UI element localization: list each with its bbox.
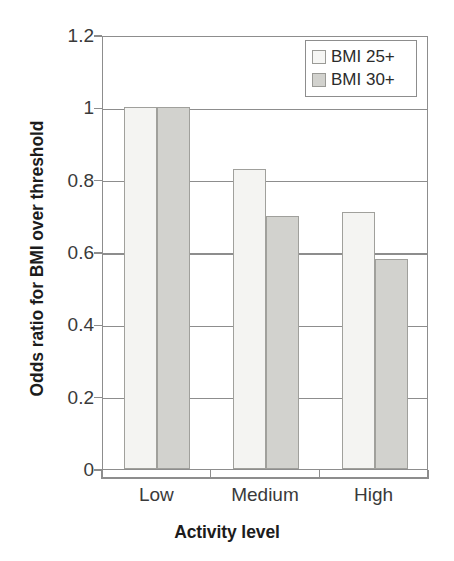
x-axis-title: Activity level xyxy=(0,522,454,543)
bar-high-series-2 xyxy=(375,259,408,469)
y-axis-tick-label: 1 xyxy=(83,98,94,117)
y-axis-tick-label: 0.4 xyxy=(68,315,94,334)
y-axis-tick-mark xyxy=(94,397,102,399)
y-axis-tick-mark xyxy=(94,108,102,110)
x-axis-label-low: Low xyxy=(102,484,211,506)
plot-area xyxy=(102,36,428,470)
bar-chart-figure: Odds ratio for BMI over threshold 1.210.… xyxy=(0,0,454,561)
legend-label: BMI 30+ xyxy=(331,71,395,88)
x-axis-separator-tick xyxy=(210,470,212,479)
y-axis-tick-label: 0.6 xyxy=(68,243,94,262)
y-axis-tick-label: 0 xyxy=(83,460,94,479)
bar-high-series-1 xyxy=(342,212,375,469)
chart-legend: BMI 25+BMI 30+ xyxy=(305,40,417,97)
y-axis-tick-mark xyxy=(94,180,102,182)
bar-low-series-2 xyxy=(157,107,190,469)
legend-swatch-bmi-25 xyxy=(312,50,326,64)
x-axis-separator-tick xyxy=(101,470,103,479)
y-axis-tick-mark xyxy=(94,35,102,37)
bars-group xyxy=(103,37,427,469)
y-axis-tick-label: 0.2 xyxy=(68,388,94,407)
legend-item-2: BMI 30+ xyxy=(312,68,411,91)
y-axis-tick-label: 1.2 xyxy=(68,26,94,45)
bar-low-series-1 xyxy=(124,107,157,469)
legend-swatch-bmi-30 xyxy=(312,73,326,87)
x-axis-line xyxy=(102,477,428,479)
legend-label: BMI 25+ xyxy=(331,48,395,65)
x-axis-label-high: High xyxy=(319,484,428,506)
legend-item-1: BMI 25+ xyxy=(312,45,411,68)
x-axis-label-medium: Medium xyxy=(211,484,320,506)
y-axis-tick-mark xyxy=(94,325,102,327)
y-axis-title: Odds ratio for BMI over threshold xyxy=(27,39,48,479)
x-axis-separator-tick xyxy=(427,470,429,479)
bar-medium-series-2 xyxy=(266,216,299,469)
bar-medium-series-1 xyxy=(233,169,266,469)
x-axis-separator-tick xyxy=(319,470,321,479)
y-axis-tick-label: 0.8 xyxy=(68,171,94,190)
y-axis-tick-mark xyxy=(94,252,102,254)
